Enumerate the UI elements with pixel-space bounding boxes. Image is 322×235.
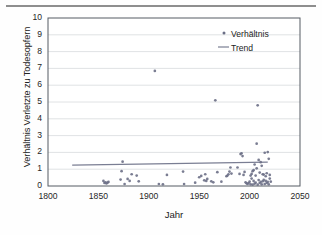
scatter-point <box>123 183 126 186</box>
scatter-point <box>252 169 255 172</box>
y-tick-label-1: 1 <box>22 163 42 173</box>
scatter-point <box>228 170 231 173</box>
scatter-point <box>266 181 269 184</box>
x-tick-label-2050: 2050 <box>280 191 320 201</box>
scatter-point <box>214 99 217 102</box>
y-tick-label-7: 7 <box>22 62 42 72</box>
scatter-point <box>268 177 271 180</box>
scatter-point <box>229 166 232 169</box>
scatter-point <box>121 160 124 163</box>
scatter-point <box>236 166 239 169</box>
y-tick-label-9: 9 <box>22 29 42 39</box>
scatter-point <box>238 173 241 176</box>
scatter-point <box>182 170 185 173</box>
scatter-point <box>166 174 169 177</box>
legend-item-verhaeltnis: Verhältnis <box>231 29 269 39</box>
scatter-point <box>260 183 263 186</box>
scatter-point <box>267 183 270 186</box>
y-tick-label-5: 5 <box>22 96 42 106</box>
scatter-point <box>260 164 263 167</box>
scatter-point <box>119 178 122 181</box>
scatter-point <box>263 183 266 186</box>
plot-frame <box>48 18 300 186</box>
scatter-point <box>183 183 186 186</box>
scatter-point <box>126 178 129 181</box>
scatter-point <box>240 152 243 155</box>
scatter-point <box>230 172 233 175</box>
scatter-point <box>120 170 123 173</box>
x-tick-label-1800: 1800 <box>28 191 68 201</box>
scatter-point <box>265 172 268 175</box>
scatter-point <box>250 177 253 180</box>
scatter-point <box>263 151 266 154</box>
scatter-point <box>254 174 257 177</box>
scatter-point <box>248 180 251 183</box>
scatter-point <box>243 171 246 174</box>
scatter-point <box>130 173 133 176</box>
scatter-point <box>257 179 260 182</box>
scatter-point <box>154 70 157 73</box>
scan-artifact <box>14 219 306 231</box>
scatter-point <box>267 157 270 160</box>
legend-dot-icon <box>223 32 226 35</box>
scatter-point <box>158 183 161 186</box>
scatter-point <box>261 180 264 183</box>
y-tick-label-4: 4 <box>22 113 42 123</box>
scatter-point <box>266 151 269 154</box>
scatter-point <box>268 174 271 177</box>
scatter-point <box>137 180 140 183</box>
scatter-point <box>162 183 165 186</box>
scatter-point <box>241 155 244 158</box>
y-tick-label-10: 10 <box>22 12 42 22</box>
scatter-point <box>200 175 203 178</box>
scatter-point <box>255 142 258 145</box>
scatter-point <box>269 180 272 183</box>
scatter-point <box>227 173 230 176</box>
scatter-point <box>216 171 219 174</box>
scatter-point <box>253 163 256 166</box>
scatter-point <box>128 180 131 183</box>
scatter-point <box>257 159 260 162</box>
y-tick-label-0: 0 <box>22 180 42 190</box>
scatter-point <box>242 174 245 177</box>
scatter-point <box>212 181 215 184</box>
x-tick-label-1950: 1950 <box>179 191 219 201</box>
scatter-point <box>249 174 252 177</box>
legend-item-trend: Trend <box>231 43 253 53</box>
scatter-point <box>254 181 257 184</box>
x-tick-label-1850: 1850 <box>78 191 118 201</box>
scatter-point <box>206 178 209 181</box>
scatter-point <box>259 161 262 164</box>
figure-container: Verhältnis Verletzte zu Todesopfern Jahr… <box>0 0 322 235</box>
x-tick-label-1900: 1900 <box>129 191 169 201</box>
scatter-point <box>256 104 259 107</box>
scatter-point <box>135 174 138 177</box>
y-tick-label-2: 2 <box>22 146 42 156</box>
scatter-point <box>194 181 197 184</box>
scatter-point <box>262 173 265 176</box>
scatter-point <box>204 173 207 176</box>
scatter-point <box>107 181 110 184</box>
scatter-point <box>255 167 258 170</box>
y-tick-label-8: 8 <box>22 46 42 56</box>
scatter-point <box>258 171 261 174</box>
scatter-point <box>220 180 223 183</box>
y-tick-label-6: 6 <box>22 79 42 89</box>
x-tick-label-2000: 2000 <box>230 191 270 201</box>
y-tick-label-3: 3 <box>22 130 42 140</box>
